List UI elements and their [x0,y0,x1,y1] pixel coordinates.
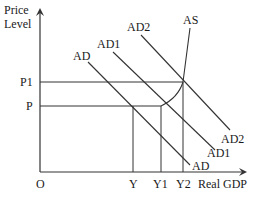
ad1-bottom-label: AD1 [207,146,230,160]
y-axis-label-line2: Level [4,17,32,31]
y2-label: Y2 [176,177,191,191]
p1-label: P1 [20,75,33,89]
origin-label: O [36,177,45,191]
as-label: AS [183,13,198,27]
ad-bottom-label: AD [192,159,210,173]
x-axis-label: Real GDP [198,177,247,191]
ad-top-label: AD [73,49,91,63]
ad1-top-label: AD1 [97,37,120,51]
ad2-bottom-label: AD2 [221,132,244,146]
ad2-top-label: AD2 [127,20,150,34]
as-curve [161,28,190,106]
ad-as-diagram: Price Level Real GDP O P1 P Y Y1 Y2 AD A… [0,0,258,205]
y1-label: Y1 [153,177,168,191]
p-label: P [26,99,33,113]
ad1-curve [113,52,215,150]
y-label: Y [129,177,138,191]
y-axis-label-line1: Price [4,3,29,17]
